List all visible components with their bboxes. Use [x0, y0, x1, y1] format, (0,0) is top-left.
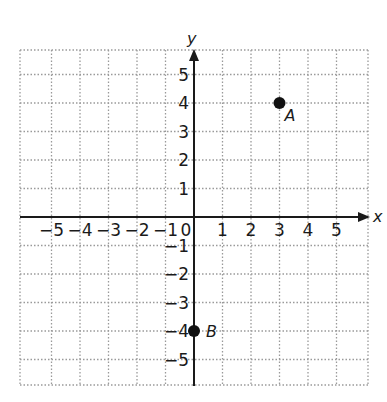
y-tick-label: −4	[164, 321, 189, 341]
x-tick-label: −4	[67, 220, 92, 240]
x-axis-arrow-icon	[358, 212, 370, 222]
x-tick-label: 1	[217, 220, 228, 240]
y-tick-label: 1	[178, 179, 189, 199]
y-tick-label: 4	[178, 93, 189, 113]
point-label-a: A	[284, 106, 296, 125]
y-axis-label: y	[186, 29, 197, 48]
point-b	[188, 325, 200, 337]
coordinate-plane: x y −5−4−3−2−112345054321−1−2−3−4−5 AB	[0, 0, 387, 402]
x-axis-label: x	[372, 207, 383, 226]
y-tick-label: −3	[164, 293, 189, 313]
axes: x y	[20, 29, 383, 386]
x-tick-label: 4	[303, 220, 314, 240]
x-tick-label: 3	[274, 220, 285, 240]
x-tick-label: 2	[246, 220, 257, 240]
x-tick-label: 5	[331, 220, 342, 240]
point-label-b: B	[206, 322, 217, 341]
y-tick-label: −2	[164, 264, 189, 284]
y-tick-label: 3	[178, 122, 189, 142]
y-tick-label: 2	[178, 150, 189, 170]
x-tick-label: −5	[39, 220, 64, 240]
y-tick-label: 5	[178, 65, 189, 85]
x-tick-label: −2	[124, 220, 149, 240]
y-tick-label: −5	[164, 350, 189, 370]
y-tick-label: −1	[164, 236, 189, 256]
x-tick-label: −3	[96, 220, 121, 240]
y-axis-arrow-icon	[189, 49, 199, 61]
